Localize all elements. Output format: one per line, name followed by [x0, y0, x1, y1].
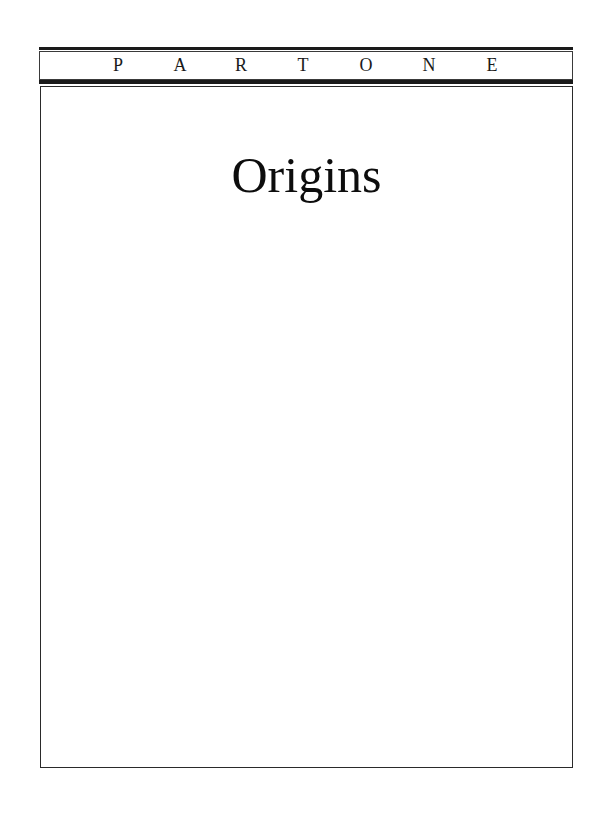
part-letter-p: P — [108, 55, 128, 75]
part-letter-a: A — [170, 55, 190, 75]
part-letter-t: T — [293, 55, 313, 75]
part-letter-o: O — [356, 55, 376, 75]
header-top-rule — [39, 47, 573, 50]
part-letter-n: N — [419, 55, 439, 75]
part-letter-r: R — [231, 55, 251, 75]
page-frame: Origins — [40, 86, 573, 768]
page-title: Origins — [41, 147, 572, 203]
part-letter-e: E — [482, 55, 502, 75]
header-bottom-rule — [39, 80, 573, 84]
part-heading-banner: P A R T O N E — [39, 51, 573, 80]
